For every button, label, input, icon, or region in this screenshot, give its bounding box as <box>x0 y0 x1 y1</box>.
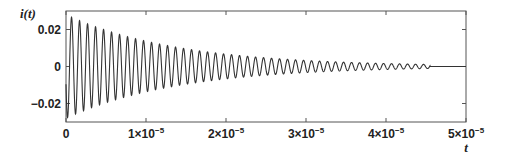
y-tick-label: 0.02 <box>38 23 62 37</box>
x-tick-label: 0 <box>63 127 70 141</box>
x-tick-label: 4×10−5 <box>368 126 405 141</box>
x-tick-label: 5×10−5 <box>448 126 485 141</box>
y-tick-label: −0.02 <box>31 97 62 111</box>
x-tick-label: 1×10−5 <box>128 126 165 141</box>
y-tick-label: 0 <box>54 60 61 74</box>
y-axis-label: i(t) <box>20 6 36 21</box>
current-curve <box>66 17 466 117</box>
x-axis-label: t <box>464 140 468 155</box>
damped-current-chart: 01×10−52×10−53×10−54×10−55×10−5 0.020−0.… <box>0 0 506 162</box>
x-tick-label: 2×10−5 <box>208 126 245 141</box>
x-tick-label: 3×10−5 <box>288 126 325 141</box>
